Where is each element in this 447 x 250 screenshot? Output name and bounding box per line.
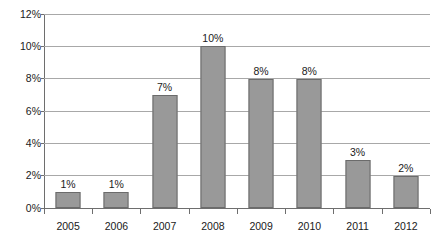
- bar-value-2011: 3%: [350, 147, 365, 158]
- x-tick-label-2005: 2005: [56, 220, 79, 232]
- x-tick-mark: [92, 209, 93, 214]
- bar-value-2012: 2%: [398, 163, 413, 174]
- bar-chart: 12% 10% 8% 6% 4% 2% 0% 1% 1%: [0, 0, 447, 250]
- x-tick-label-2010: 2010: [298, 220, 321, 232]
- bar-value-2009: 8%: [254, 66, 269, 77]
- x-tick-mark: [430, 209, 431, 214]
- x-tick-label-2012: 2012: [394, 220, 417, 232]
- x-tick-mark: [189, 209, 190, 214]
- y-tick-label: 6%: [5, 106, 41, 117]
- x-tick-mark: [333, 209, 334, 214]
- x-tick-mark: [44, 209, 45, 214]
- bar-slot-2010: 8%: [285, 14, 333, 208]
- bar-slot-2005: 1%: [44, 14, 92, 208]
- bar-slot-2011: 3%: [334, 14, 382, 208]
- x-tick-mark: [382, 209, 383, 214]
- bar-value-2008: 10%: [202, 33, 223, 44]
- bar-slot-2006: 1%: [92, 14, 140, 208]
- bars-layer: 1% 1% 7% 10% 8% 8% 3% 2%: [44, 14, 430, 208]
- x-tick-label-2006: 2006: [105, 220, 128, 232]
- x-tick-label-2007: 2007: [153, 220, 176, 232]
- x-tick-mark: [237, 209, 238, 214]
- bar-2012[interactable]: [393, 176, 418, 208]
- bar-slot-2012: 2%: [382, 14, 430, 208]
- x-tick-mark: [140, 209, 141, 214]
- x-tick-label-2008: 2008: [201, 220, 224, 232]
- bar-value-2005: 1%: [61, 179, 76, 190]
- x-axis-ticks: [44, 209, 431, 214]
- y-tick-label: 8%: [5, 73, 41, 84]
- bar-2006[interactable]: [104, 192, 129, 208]
- bar-value-2006: 1%: [109, 179, 124, 190]
- bar-value-2007: 7%: [157, 82, 172, 93]
- bar-slot-2007: 7%: [141, 14, 189, 208]
- y-axis: 12% 10% 8% 6% 4% 2% 0%: [0, 0, 41, 250]
- y-tick-label: 12%: [5, 9, 41, 20]
- bar-2005[interactable]: [56, 192, 81, 208]
- y-tick-label: 4%: [5, 138, 41, 149]
- bar-2008[interactable]: [200, 46, 225, 208]
- x-tick-label-2011: 2011: [346, 220, 369, 232]
- bar-slot-2008: 10%: [189, 14, 237, 208]
- bar-2009[interactable]: [249, 79, 274, 208]
- y-tick-label: 10%: [5, 41, 41, 52]
- y-tick-label: 0%: [5, 203, 41, 214]
- bar-slot-2009: 8%: [237, 14, 285, 208]
- x-axis-labels: 2005 2006 2007 2008 2009 2010 2011 2012: [44, 220, 430, 236]
- bar-2010[interactable]: [297, 79, 322, 208]
- y-tick-label: 2%: [5, 170, 41, 181]
- bar-2007[interactable]: [152, 95, 177, 208]
- x-tick-label-2009: 2009: [249, 220, 272, 232]
- bar-2011[interactable]: [345, 160, 370, 209]
- x-tick-mark: [285, 209, 286, 214]
- bar-value-2010: 8%: [302, 66, 317, 77]
